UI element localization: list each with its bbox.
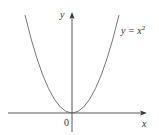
x-axis-label: x [141, 118, 147, 129]
curve-label-main: y = x [120, 25, 142, 36]
y-axis-label: y [59, 9, 65, 20]
origin-label: 0 [64, 117, 69, 128]
curve-label: y = x2 [120, 24, 146, 36]
curve-label-exponent: 2 [142, 24, 146, 32]
parabola-plot: y x 0 y = x2 [0, 0, 159, 135]
